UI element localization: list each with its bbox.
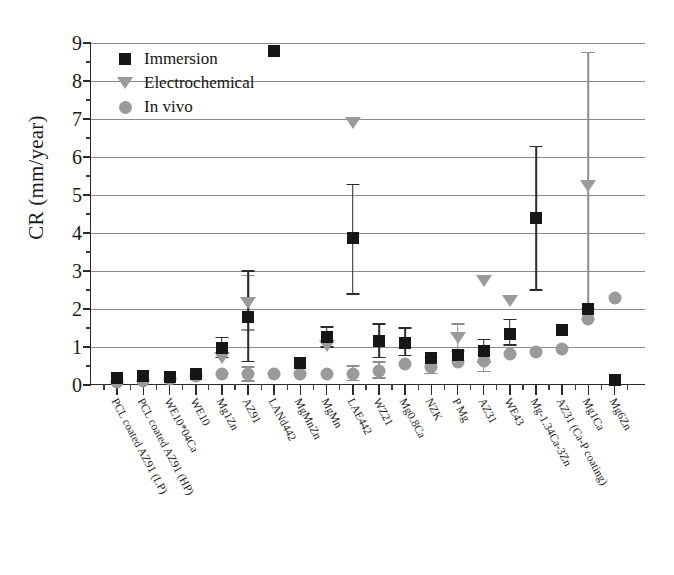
data-point-triangle-down: [476, 275, 492, 287]
y-tick: [83, 118, 91, 120]
y-tick: [83, 346, 91, 348]
error-bar-cap: [477, 371, 490, 373]
x-axis-label: AZ31: [476, 396, 499, 425]
gridline: [91, 233, 645, 234]
data-point-circle: [215, 368, 228, 381]
legend-label: Immersion: [144, 49, 218, 69]
y-tick: [83, 270, 91, 272]
data-point-circle: [372, 364, 385, 377]
x-tick-minor: [601, 384, 602, 390]
x-tick-minor: [496, 384, 497, 390]
data-point-circle: [530, 345, 543, 358]
error-bar-cap: [582, 52, 595, 54]
x-axis-label: Mg1Ca: [581, 396, 608, 432]
y-tick-label: 2: [72, 299, 82, 319]
data-point-triangle-down: [502, 295, 518, 307]
x-tick: [221, 384, 223, 395]
error-bar-cap: [242, 361, 255, 363]
error-bar-cap: [346, 293, 359, 295]
error-bar-cap: [399, 327, 412, 329]
x-tick-minor: [522, 384, 523, 390]
x-axis-label: P Mg: [450, 396, 472, 424]
data-point-circle: [242, 368, 255, 381]
chart-root: CR (mm/year) 0123456789 PCL coated AZ91 …: [0, 0, 674, 575]
x-axis-category-labels: PCL coated AZ91 (LP)PCL coated AZ91 (HP)…: [90, 396, 645, 575]
x-tick: [326, 384, 328, 395]
data-point-circle: [477, 355, 490, 368]
x-tick: [352, 384, 354, 395]
x-tick-minor: [103, 384, 104, 390]
x-axis-label: WZ21: [371, 396, 395, 428]
x-tick-minor: [418, 384, 419, 390]
data-point-circle: [556, 342, 569, 355]
data-point-square: [478, 345, 490, 357]
y-tick-label: 9: [72, 33, 82, 53]
data-point-square: [164, 371, 176, 383]
y-tick: [83, 232, 91, 234]
x-tick-minor: [575, 384, 576, 390]
data-point-square: [556, 324, 568, 336]
x-tick-minor: [287, 384, 288, 390]
gridline: [91, 271, 645, 272]
y-tick: [83, 42, 91, 44]
x-tick: [483, 384, 485, 395]
x-tick: [378, 384, 380, 395]
x-axis-label: Mg1Zn: [214, 396, 241, 432]
data-point-triangle-down: [580, 180, 596, 192]
legend-marker-square: [112, 53, 138, 65]
x-tick: [535, 384, 537, 395]
data-point-square: [190, 368, 202, 380]
x-tick-minor: [234, 384, 235, 390]
legend-item: In vivo: [112, 96, 254, 118]
data-point-circle: [608, 291, 621, 304]
data-point-square: [373, 335, 385, 347]
gridline: [91, 43, 645, 44]
x-tick: [588, 384, 590, 395]
y-tick-label: 1: [72, 337, 82, 357]
y-tick: [83, 308, 91, 310]
data-point-square: [452, 349, 464, 361]
error-bar-cap: [477, 339, 490, 341]
x-axis-label: WE43: [502, 396, 526, 428]
data-point-circle: [346, 367, 359, 380]
y-axis-title: CR (mm/year): [24, 58, 49, 298]
data-point-square: [111, 372, 123, 384]
triangle-down-icon: [117, 77, 133, 89]
error-bar-cap: [399, 355, 412, 357]
x-tick-minor: [208, 384, 209, 390]
error-bar-cap: [530, 289, 543, 291]
x-tick-minor: [391, 384, 392, 390]
gridline: [91, 309, 645, 310]
error-bar-cap: [320, 326, 333, 328]
y-tick-label: 5: [72, 185, 82, 205]
data-point-triangle-down: [240, 297, 256, 309]
x-tick: [509, 384, 511, 395]
x-tick: [561, 384, 563, 395]
legend-item: Immersion: [112, 48, 254, 70]
y-tick: [83, 156, 91, 158]
data-point-circle: [268, 368, 281, 381]
x-tick: [247, 384, 249, 395]
data-point-square: [425, 352, 437, 364]
gridline: [91, 157, 645, 158]
x-tick-minor: [313, 384, 314, 390]
x-tick: [431, 384, 433, 395]
x-tick-minor: [548, 384, 549, 390]
error-bar-cap: [451, 323, 464, 325]
x-axis-label: MgMn: [319, 396, 345, 430]
x-tick-minor: [339, 384, 340, 390]
y-tick-label: 4: [72, 223, 82, 243]
y-tick-minor: [86, 99, 91, 100]
legend-label: Electrochemical: [144, 73, 254, 93]
x-tick-minor: [261, 384, 262, 390]
data-point-circle: [503, 347, 516, 360]
y-tick-minor: [86, 61, 91, 62]
data-point-triangle-down: [345, 117, 361, 129]
data-point-square: [504, 328, 516, 340]
error-bar-cap: [372, 323, 385, 325]
data-point-square: [242, 311, 254, 323]
legend-marker-circle: [112, 101, 138, 114]
y-tick-minor: [86, 365, 91, 366]
x-tick: [195, 384, 197, 395]
x-tick-minor: [156, 384, 157, 390]
